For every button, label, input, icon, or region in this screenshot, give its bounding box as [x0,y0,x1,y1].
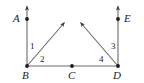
angle-label-4: 4 [99,55,104,64]
point-label-b: B [22,70,29,81]
point-c-dot [70,64,74,68]
geometry-diagram: A B C D E 1 2 3 4 [0,0,144,83]
point-label-c: C [68,70,75,81]
angle-label-1: 1 [30,42,35,51]
point-a-dot [25,17,29,21]
point-label-d: D [113,70,121,81]
point-d-dot [116,64,120,68]
angle-label-2: 2 [40,55,45,64]
point-e-dot [116,17,120,21]
point-label-a: A [13,13,20,24]
point-label-e: E [124,13,131,24]
point-b-dot [25,64,29,68]
angle-label-3: 3 [111,42,116,51]
